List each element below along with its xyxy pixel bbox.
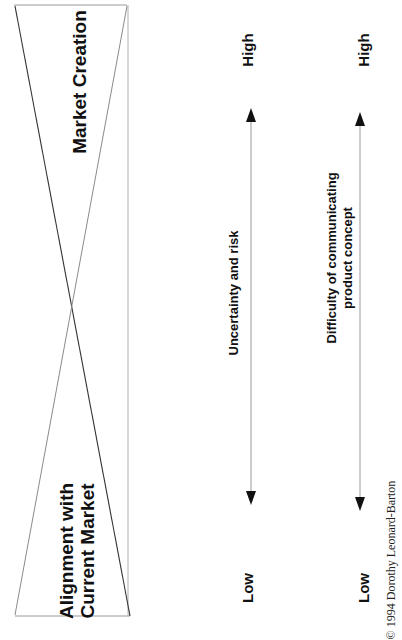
market-creation-text: Market Creation	[69, 10, 90, 154]
arrowhead-high-icon	[355, 112, 365, 126]
axis1-low-label: Low	[239, 573, 256, 603]
axis1-title: Uncertainty and risk	[226, 231, 242, 356]
alignment-line-1: Alignment with	[56, 483, 77, 619]
axis2-title-line-1: Difficulty of communicating	[324, 172, 340, 343]
arrowhead-high-icon	[246, 108, 256, 122]
axis2-title: Difficulty of communicating product conc…	[324, 172, 356, 343]
region-label-market-creation: Market Creation	[69, 10, 90, 154]
axis1-high-label: High	[239, 33, 256, 66]
axis2-low-label: Low	[355, 573, 372, 603]
axis-arrow-uncertainty	[246, 108, 256, 505]
axis1-title-line-1: Uncertainty and risk	[226, 231, 242, 356]
axis2-title-line-2: product concept	[340, 172, 356, 343]
alignment-line-2: Current Market	[77, 483, 98, 619]
axis2-high-label: High	[355, 33, 372, 66]
arrowhead-low-icon	[355, 497, 365, 511]
diagram-canvas: Market Creation Alignment with Current M…	[0, 0, 402, 640]
copyright-credit: © 1994 Dorothy Leonard-Barton	[384, 481, 399, 640]
arrowhead-low-icon	[246, 491, 256, 505]
axis-arrow-communication	[355, 112, 365, 511]
region-label-alignment: Alignment with Current Market	[56, 483, 98, 619]
